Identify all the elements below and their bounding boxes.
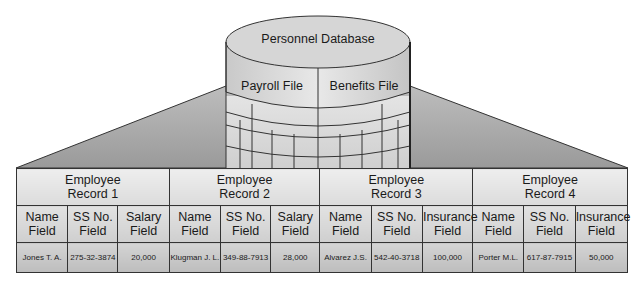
field-value: 275-32-3874 — [68, 243, 118, 273]
employee-records-table: EmployeeRecord 1 EmployeeRecord 2 Employ… — [16, 168, 628, 273]
database-title: Personnel Database — [226, 32, 410, 46]
field-value: 617-87-7915 — [524, 243, 575, 273]
field-value: 50,000 — [575, 243, 627, 273]
field-header: SS No.Field — [220, 206, 270, 243]
payroll-file-label: Payroll File — [226, 79, 318, 93]
record-1-header: EmployeeRecord 1 — [17, 169, 170, 206]
field-value: 349-88-7913 — [220, 243, 270, 273]
field-value-row: Jones T. A. 275-32-3874 20,000 Klugman J… — [17, 243, 628, 273]
field-header: NameField — [320, 206, 371, 243]
field-value: Porter M.L. — [473, 243, 524, 273]
record-4-header: EmployeeRecord 4 — [473, 169, 628, 206]
field-header: InsuranceField — [575, 206, 627, 243]
field-value: 100,000 — [422, 243, 472, 273]
field-value: 20,000 — [118, 243, 169, 273]
field-header: SS No.Field — [371, 206, 422, 243]
field-header: SalaryField — [271, 206, 320, 243]
field-header: SS No.Field — [524, 206, 575, 243]
record-2-header: EmployeeRecord 2 — [169, 169, 320, 206]
field-value: 28,000 — [271, 243, 320, 273]
record-3-header: EmployeeRecord 3 — [320, 169, 473, 206]
record-header-row: EmployeeRecord 1 EmployeeRecord 2 Employ… — [17, 169, 628, 206]
field-header: SS No.Field — [68, 206, 118, 243]
field-value: Jones T. A. — [17, 243, 68, 273]
field-header: NameField — [169, 206, 220, 243]
field-header: InsuranceField — [422, 206, 472, 243]
field-header: SalaryField — [118, 206, 169, 243]
field-value: Alvarez J.S. — [320, 243, 371, 273]
benefits-file-label: Benefits File — [318, 79, 410, 93]
field-header-row: NameField SS No.Field SalaryField NameFi… — [17, 206, 628, 243]
field-header: NameField — [17, 206, 68, 243]
field-header: NameField — [473, 206, 524, 243]
field-value: 542-40-3718 — [371, 243, 422, 273]
field-value: Klugman J. L. — [169, 243, 220, 273]
